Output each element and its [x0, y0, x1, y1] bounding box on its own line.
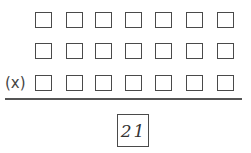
digit-box-r2-c6	[186, 43, 203, 59]
digit-box-r2-c7	[217, 43, 234, 59]
digit-box-r3-c4	[125, 75, 142, 91]
digit-box-r1-c5	[155, 12, 172, 28]
digit-box-r2-c5	[155, 43, 172, 59]
digit-box-r3-c1	[35, 75, 52, 91]
digit-box-r2-c2	[66, 43, 83, 59]
digit-box-r1-c2	[66, 12, 83, 28]
digit-box-r1-c4	[125, 12, 142, 28]
sum-line	[5, 98, 242, 100]
digit-box-r3-c6	[186, 75, 203, 91]
digit-box-r3-c7	[217, 75, 234, 91]
digit-box-r2-c1	[35, 43, 52, 59]
digit-box-r1-c1	[35, 12, 52, 28]
answer-value: 21	[121, 121, 147, 141]
digit-box-r2-c4	[125, 43, 142, 59]
digit-box-r3-c3	[95, 75, 112, 91]
digit-box-r2-c3	[95, 43, 112, 59]
digit-box-r1-c6	[186, 12, 203, 28]
answer-box: 21	[117, 114, 149, 147]
multiplication-operator-label: (x)	[5, 74, 26, 92]
digit-box-r3-c2	[66, 75, 83, 91]
digit-box-r3-c5	[155, 75, 172, 91]
digit-box-r1-c7	[217, 12, 234, 28]
digit-box-r1-c3	[95, 12, 112, 28]
